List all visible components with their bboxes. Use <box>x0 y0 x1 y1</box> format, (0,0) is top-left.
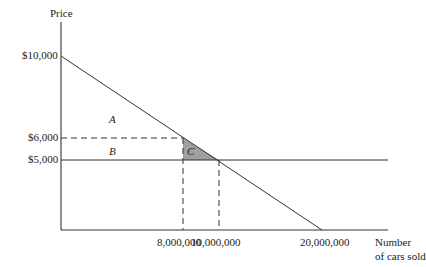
region-c-label: C <box>187 146 194 157</box>
x-axis-title-line2: of cars sold <box>375 251 426 262</box>
y-tick-5000: $5,000 <box>28 154 58 165</box>
y-tick-6000: $6,000 <box>28 132 58 143</box>
x-tick-20m: 20,000,000 <box>300 237 350 248</box>
region-b-label: B <box>109 146 116 157</box>
y-axis-title: Price <box>50 8 73 19</box>
x-axis-title-line1: Number <box>375 237 411 248</box>
demand-line <box>61 56 322 230</box>
x-tick-10m: 10,000,000 <box>191 237 241 248</box>
region-a-label: A <box>109 114 116 125</box>
y-tick-10000: $10,000 <box>22 50 58 61</box>
